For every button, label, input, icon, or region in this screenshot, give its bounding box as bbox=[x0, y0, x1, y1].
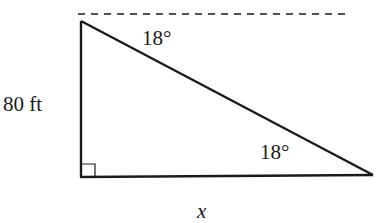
top-angle-label: 18° bbox=[142, 26, 171, 50]
right-triangle-diagram: 18° 80 ft 18° x bbox=[0, 0, 389, 223]
right-angle-marker-icon bbox=[82, 164, 95, 177]
base-side bbox=[80, 175, 373, 177]
height-label: 80 ft bbox=[3, 92, 42, 116]
base-label: x bbox=[196, 199, 207, 223]
hypotenuse bbox=[81, 21, 373, 175]
bottom-angle-label: 18° bbox=[260, 140, 289, 164]
